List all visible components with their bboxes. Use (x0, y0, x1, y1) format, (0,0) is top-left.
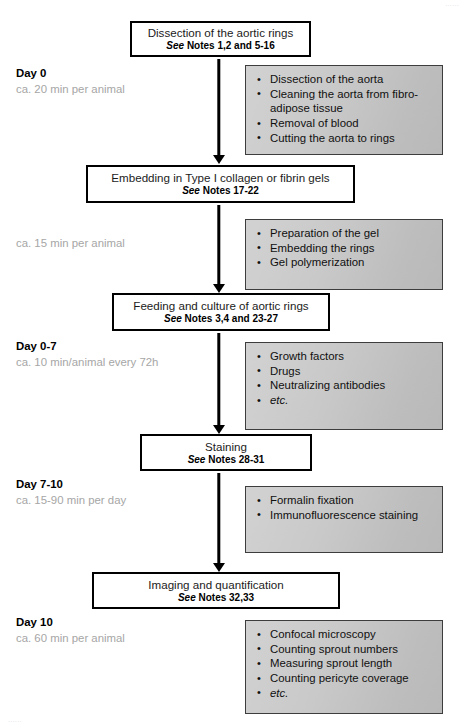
bullet-icon: • (257, 86, 261, 100)
list-item-text: Immunofluorescence staining (270, 509, 418, 521)
bullet-icon: • (257, 72, 261, 86)
bullet-icon: • (257, 226, 261, 240)
detail-box-feeding: •Growth factors •Drugs •Neutralizing ant… (245, 342, 443, 430)
phase-duration: ca. 60 min per animal (16, 631, 125, 646)
phase-label-day-10: Day 10 ca. 60 min per animal (16, 615, 125, 646)
step-box-imaging: Imaging and quantification See Notes 32,… (92, 572, 340, 609)
notes-ref: Notes 32,33 (198, 592, 254, 603)
list-item: •etc. (255, 686, 434, 701)
list-item: •Cutting the aorta to rings (255, 131, 434, 146)
arrow-shaft (217, 333, 220, 425)
bullet-icon: • (257, 507, 261, 521)
arrow-head-icon (213, 425, 225, 434)
bullet-icon: • (257, 255, 261, 269)
arrow-head-icon (213, 284, 225, 293)
list-item-text: Dissection of the aorta (270, 73, 383, 85)
bullet-icon: • (257, 493, 261, 507)
list-item-text: Counting sprout numbers (270, 643, 398, 655)
list-item-text: Cleaning the aorta from fibro-adipose ti… (270, 88, 418, 115)
list-item: •Neutralizing antibodies (255, 378, 434, 393)
list-item: •Drugs (255, 364, 434, 379)
list-item-text: Confocal microscopy (270, 628, 376, 640)
phase-label-day-0: Day 0 ca. 20 min per animal (16, 66, 125, 97)
phase-duration: ca. 10 min/animal every 72h (16, 355, 158, 370)
see-label: See (182, 185, 200, 196)
step-title: Feeding and culture of aortic rings (133, 299, 308, 312)
list-item-text: Removal of blood (270, 117, 359, 129)
list-item-text: Counting pericyte coverage (270, 672, 409, 684)
see-label: See (166, 40, 184, 51)
list-item-text: Growth factors (270, 350, 344, 362)
list-item: •Growth factors (255, 349, 434, 364)
cropped-text-top: ...... (445, 0, 459, 8)
bullet-icon: • (257, 685, 261, 699)
detail-list: •Confocal microscopy •Counting sprout nu… (255, 627, 434, 701)
arrow-staining-to-imaging (206, 473, 232, 572)
detail-box-staining: •Formalin fixation •Immunofluorescence s… (245, 486, 443, 553)
list-item-text: etc. (270, 687, 288, 699)
arrow-shaft (217, 473, 220, 563)
step-title: Staining (205, 440, 247, 453)
bullet-icon: • (257, 627, 261, 641)
step-box-feeding: Feeding and culture of aortic rings See … (112, 293, 330, 331)
list-item: •Dissection of the aorta (255, 72, 434, 87)
step-notes: See Notes 1,2 and 5-16 (166, 40, 274, 51)
detail-list: •Dissection of the aorta •Cleaning the a… (255, 72, 434, 146)
detail-list: •Formalin fixation •Immunofluorescence s… (255, 493, 434, 522)
step-title: Embedding in Type I collagen or fibrin g… (111, 171, 329, 184)
phase-day: Day 0-7 (16, 339, 158, 353)
arrow-shaft (217, 205, 220, 284)
step-title: Imaging and quantification (148, 578, 283, 591)
list-item-text: Formalin fixation (270, 494, 354, 506)
bullet-icon: • (257, 378, 261, 392)
phase-duration: ca. 15 min per animal (16, 236, 125, 251)
bullet-icon: • (257, 116, 261, 130)
see-label: See (188, 454, 206, 465)
list-item-text: Embedding the rings (270, 242, 374, 254)
list-item-text: Preparation of the gel (270, 227, 379, 239)
list-item: •Formalin fixation (255, 493, 434, 508)
arrow-embedding-to-feeding (206, 205, 232, 293)
list-item-text: Neutralizing antibodies (270, 379, 385, 391)
arrow-head-icon (213, 155, 225, 164)
list-item: •Removal of blood (255, 116, 434, 131)
list-item-text: Drugs (270, 365, 300, 377)
notes-ref: Notes 28-31 (208, 454, 264, 465)
notes-ref: Notes 17-22 (203, 185, 259, 196)
step-notes: See Notes 32,33 (178, 592, 254, 603)
list-item-text: Cutting the aorta to rings (270, 132, 395, 144)
bullet-icon: • (257, 349, 261, 363)
phase-duration: ca. 15-90 min per day (16, 493, 126, 508)
list-item-text: etc. (270, 394, 288, 406)
list-item-text: Gel polymerization (270, 256, 364, 268)
phase-day: Day 7-10 (16, 477, 126, 491)
list-item-text: Measuring sprout length (270, 657, 392, 669)
list-item: •etc. (255, 393, 434, 408)
list-item: •Cleaning the aorta from fibro-adipose t… (255, 87, 434, 116)
flowchart-figure: ...... ...... Dissection of the aortic r… (0, 0, 467, 725)
phase-day: Day 0 (16, 66, 125, 80)
see-label: See (164, 313, 182, 324)
phase-day: Day 10 (16, 615, 125, 629)
see-label: See (178, 592, 196, 603)
detail-box-imaging: •Confocal microscopy •Counting sprout nu… (245, 620, 443, 714)
detail-box-dissection: •Dissection of the aorta •Cleaning the a… (245, 65, 443, 155)
step-box-staining: Staining See Notes 28-31 (140, 434, 312, 471)
step-notes: See Notes 3,4 and 23-27 (164, 313, 278, 324)
arrow-head-icon (213, 563, 225, 572)
phase-label-day-0-b: ca. 15 min per animal (16, 236, 125, 251)
step-box-embedding: Embedding in Type I collagen or fibrin g… (86, 165, 355, 203)
detail-box-embedding: •Preparation of the gel •Embedding the r… (245, 219, 443, 290)
step-notes: See Notes 28-31 (188, 454, 265, 465)
list-item: •Immunofluorescence staining (255, 508, 434, 523)
phase-duration: ca. 20 min per animal (16, 82, 125, 97)
step-title: Dissection of the aortic rings (148, 26, 294, 39)
bullet-icon: • (257, 130, 261, 144)
detail-list: •Growth factors •Drugs •Neutralizing ant… (255, 349, 434, 408)
bullet-icon: • (257, 671, 261, 685)
list-item: •Measuring sprout length (255, 656, 434, 671)
detail-list: •Preparation of the gel •Embedding the r… (255, 226, 434, 270)
list-item: •Confocal microscopy (255, 627, 434, 642)
notes-ref: Notes 3,4 and 23-27 (185, 313, 278, 324)
arrow-shaft (217, 59, 220, 155)
